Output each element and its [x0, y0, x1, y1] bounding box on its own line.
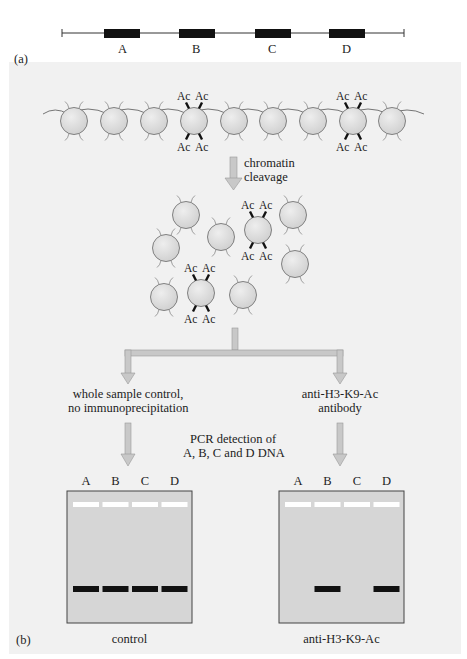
nucleosome	[208, 218, 235, 257]
panel-a-label: (a)	[14, 52, 28, 66]
chromatin-cleavage-label: chromatin cleavage	[244, 156, 295, 184]
nucleosome	[230, 276, 257, 315]
gene-map	[62, 29, 404, 38]
nucleosome	[379, 102, 406, 141]
ac-label: Ac	[241, 249, 254, 263]
ac-label: Ac	[184, 312, 197, 326]
nucleosome	[260, 102, 287, 141]
branch-left-line1: whole sample control,	[68, 387, 188, 401]
gel-caption-control: control	[67, 632, 192, 646]
arrow-branch	[121, 328, 347, 384]
ac-label: Ac	[354, 89, 367, 103]
ac-label: Ac	[259, 198, 272, 212]
ac-label: Ac	[202, 312, 215, 326]
diagram-canvas	[0, 0, 467, 659]
lane-label: A	[78, 474, 94, 488]
gel-anti-h3-k9-ac	[279, 491, 404, 623]
nucleosome-row	[61, 102, 406, 141]
step-label-line1: chromatin	[244, 156, 295, 170]
ac-label: Ac	[177, 89, 190, 103]
nucleosome	[340, 103, 367, 140]
gene-label-b: B	[192, 42, 200, 56]
nucleosome	[280, 196, 307, 235]
arrow-cleavage	[225, 157, 242, 190]
branch-left-line2: no immunoprecipitation	[68, 401, 188, 415]
nucleosome	[300, 102, 327, 141]
pcr-label: PCR detection of A, B, C and D DNA	[183, 432, 283, 460]
cleaved-nucleosomes	[151, 196, 309, 317]
lane-label: A	[290, 474, 306, 488]
pcr-line2: A, B, C and D DNA	[183, 446, 283, 460]
branch-right-label: anti-H3-K9-Ac antibody	[290, 387, 390, 415]
ac-label: Ac	[184, 261, 197, 275]
nucleosome	[181, 103, 208, 140]
ac-label: Ac	[336, 89, 349, 103]
nucleosome	[151, 278, 178, 317]
branch-right-line1: anti-H3-K9-Ac	[290, 387, 390, 401]
ac-label: Ac	[202, 261, 215, 275]
ac-label: Ac	[241, 198, 254, 212]
lane-label: B	[320, 474, 336, 488]
branch-right-line2: antibody	[290, 401, 390, 415]
nucleosome	[282, 245, 309, 284]
gene-label-d: D	[342, 42, 351, 56]
nucleosome	[153, 229, 180, 268]
lane-label: D	[167, 474, 183, 488]
lane-label: C	[137, 474, 153, 488]
lane-label: D	[379, 474, 395, 488]
gel-control	[67, 491, 192, 623]
branch-left-label: whole sample control, no immunoprecipita…	[68, 387, 188, 415]
step-label-line2: cleavage	[244, 170, 295, 184]
nucleosome	[61, 102, 88, 141]
ac-label: Ac	[259, 249, 272, 263]
gene-label-a: A	[118, 42, 127, 56]
ac-label: Ac	[177, 140, 190, 154]
ac-label: Ac	[336, 140, 349, 154]
gene-label-c: C	[268, 42, 276, 56]
gel-caption-anti: anti-H3-K9-Ac	[279, 632, 404, 646]
panel-b-label: (b)	[16, 633, 31, 647]
nucleosome	[101, 102, 128, 141]
ac-label: Ac	[195, 89, 208, 103]
nucleosome	[245, 212, 272, 249]
nucleosome	[141, 102, 168, 141]
lane-label: B	[108, 474, 124, 488]
lane-label: C	[349, 474, 365, 488]
nucleosome	[221, 102, 248, 141]
ac-label: Ac	[195, 140, 208, 154]
pcr-line1: PCR detection of	[183, 432, 283, 446]
nucleosome	[188, 275, 215, 312]
ac-label: Ac	[354, 140, 367, 154]
nucleosome	[173, 196, 200, 235]
